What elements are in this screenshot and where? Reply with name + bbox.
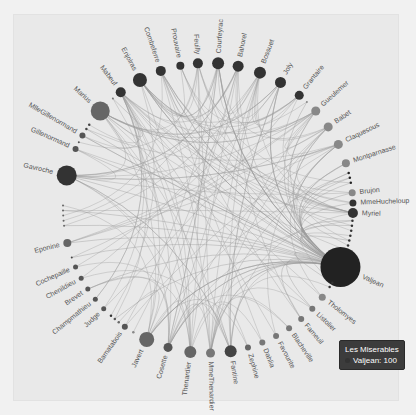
node-label: Cosette	[155, 354, 168, 379]
node-javert[interactable]	[139, 332, 154, 347]
node-label: Montparnasse	[352, 143, 397, 164]
node-joly[interactable]	[275, 77, 286, 88]
node-label: Gillenormand	[30, 125, 71, 148]
node-claquesous[interactable]	[334, 140, 343, 149]
node-prouvaire[interactable]	[176, 62, 184, 70]
node-mabeuf[interactable]	[116, 87, 126, 97]
node-chenildieu[interactable]	[79, 276, 84, 281]
node-myriel[interactable]	[348, 208, 358, 218]
node-grantaire[interactable]	[295, 91, 304, 100]
node-blacheville[interactable]	[286, 325, 292, 331]
node-minor[interactable]	[348, 239, 351, 242]
node-eponine[interactable]	[63, 239, 71, 247]
node-minor[interactable]	[63, 220, 65, 222]
node-judge[interactable]	[101, 306, 106, 311]
node-label: Blacheville	[291, 332, 316, 364]
node-zephine[interactable]	[245, 344, 251, 350]
node-label: Brevet	[63, 289, 84, 306]
node-minor[interactable]	[328, 286, 331, 289]
node-label: Gavroche	[23, 161, 54, 175]
tooltip-item: Valjean: 100	[345, 355, 399, 366]
node-label: Grantaire	[301, 63, 325, 90]
node-mmethenardier[interactable]	[206, 348, 215, 357]
node-label: Courfeyrac	[215, 18, 225, 53]
node-minor[interactable]	[71, 257, 73, 259]
tooltip: Les Miserables Valjean: 100	[339, 340, 405, 370]
node-minor[interactable]	[62, 204, 64, 206]
series-dot-icon	[345, 358, 350, 363]
node-bahorel[interactable]	[233, 61, 244, 72]
node-minor[interactable]	[62, 215, 64, 217]
node-label: Valjean	[361, 273, 385, 290]
node-minor[interactable]	[88, 124, 91, 127]
node-minor[interactable]	[114, 318, 117, 321]
node-minor[interactable]	[351, 219, 354, 222]
node-minor[interactable]	[349, 234, 352, 237]
node-minor[interactable]	[110, 315, 113, 318]
node-listolier[interactable]	[309, 306, 315, 312]
node-minor[interactable]	[350, 229, 353, 232]
node-label: Combeferre	[143, 26, 162, 63]
node-label: Bossuet	[260, 38, 276, 64]
node-minor[interactable]	[62, 210, 64, 212]
node-minor[interactable]	[132, 331, 135, 334]
node-mllegillenormand[interactable]	[79, 133, 85, 139]
node-bossuet[interactable]	[254, 67, 266, 79]
node-babet[interactable]	[324, 122, 333, 131]
node-minor[interactable]	[350, 182, 353, 185]
node-valjean[interactable]	[320, 247, 360, 287]
node-label: Favourite	[277, 340, 297, 369]
node-minor[interactable]	[347, 172, 350, 175]
node-label: Prouvaire	[170, 28, 183, 59]
edge	[88, 277, 191, 352]
node-gueulemer[interactable]	[311, 106, 320, 115]
node-gavroche[interactable]	[57, 165, 77, 185]
node-label: Brujon	[359, 186, 380, 196]
node-gillenormand[interactable]	[73, 146, 79, 152]
node-label: Feuilly	[192, 34, 201, 55]
node-minor[interactable]	[78, 141, 80, 143]
node-fameuil[interactable]	[298, 316, 304, 322]
node-brevet[interactable]	[85, 287, 90, 292]
node-label: Fameuil	[304, 322, 326, 346]
node-minor[interactable]	[347, 244, 350, 247]
node-bamatabois[interactable]	[122, 324, 128, 330]
node-champmathieu[interactable]	[93, 297, 98, 302]
node-minor[interactable]	[117, 321, 120, 324]
node-feuilly[interactable]	[193, 58, 203, 68]
node-minor[interactable]	[63, 225, 65, 227]
node-combeferre[interactable]	[156, 66, 166, 76]
node-minor[interactable]	[85, 128, 88, 131]
node-enjolras[interactable]	[133, 73, 147, 87]
node-cochepaille[interactable]	[73, 264, 78, 269]
node-courfeyrac[interactable]	[212, 57, 224, 69]
edge	[67, 111, 126, 177]
node-mmehucheloup[interactable]	[349, 199, 356, 206]
node-label: Eponine	[34, 241, 61, 255]
node-label: Champmathieu	[51, 300, 93, 336]
node-brujon[interactable]	[349, 189, 356, 196]
node-minor[interactable]	[331, 281, 334, 284]
node-minor[interactable]	[349, 177, 352, 180]
node-dahlia[interactable]	[259, 339, 265, 345]
node-marius[interactable]	[91, 101, 110, 120]
node-label: MmeThenardier	[208, 361, 216, 411]
node-label: Fantine	[229, 360, 240, 384]
node-label: Claquesous	[344, 121, 381, 145]
node-fantine[interactable]	[225, 345, 237, 357]
node-minor[interactable]	[112, 98, 114, 100]
node-label: Bahorel	[236, 32, 248, 57]
node-thenardier[interactable]	[184, 346, 196, 358]
node-minor[interactable]	[306, 101, 308, 103]
node-label: MmeHucheloup	[360, 197, 409, 207]
node-cosette[interactable]	[164, 343, 173, 352]
node-label: Javert	[130, 348, 144, 368]
node-label: Bamatabois	[96, 330, 123, 365]
node-favourite[interactable]	[273, 333, 279, 339]
edge	[147, 299, 248, 347]
node-montparnasse[interactable]	[342, 159, 350, 167]
tooltip-item-text: Valjean: 100	[353, 356, 397, 365]
node-thenardier[interactable]	[319, 294, 326, 301]
node-label: Judge	[82, 310, 101, 329]
node-minor[interactable]	[351, 224, 354, 227]
